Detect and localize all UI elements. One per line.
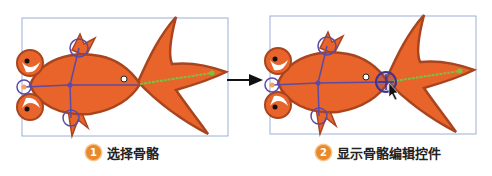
fish-tail [386, 15, 474, 132]
left-pupil [273, 57, 278, 62]
caption-text: 显示骨骼编辑控件 [337, 143, 441, 162]
top-fin [72, 34, 95, 56]
right-pupil [25, 107, 30, 112]
joint-root[interactable] [68, 83, 73, 88]
fish-armature-canvas [252, 0, 492, 140]
joint-head[interactable] [22, 85, 27, 90]
fish-armature-canvas [0, 0, 240, 140]
fish-tail [138, 17, 226, 134]
step-badge: 2 [316, 145, 331, 160]
panel-select-bone: 1 选择骨骼 [0, 0, 240, 176]
joint-root[interactable] [316, 81, 321, 86]
right-pupil [273, 105, 278, 110]
left-pupil [25, 59, 30, 64]
selected-bone-tip[interactable] [210, 71, 215, 76]
selected-bone-tip[interactable] [458, 69, 463, 74]
transform-point-icon[interactable] [363, 74, 369, 80]
caption-step-2: 2 显示骨骼编辑控件 [316, 143, 441, 162]
transform-point-icon[interactable] [121, 76, 127, 82]
caption-text: 选择骨骼 [107, 143, 159, 162]
top-fin [320, 32, 343, 54]
step-badge: 1 [86, 145, 101, 160]
joint-head[interactable] [270, 83, 275, 88]
panel-bone-edit-controls: 2 显示骨骼编辑控件 [252, 0, 492, 176]
caption-step-1: 1 选择骨骼 [86, 143, 159, 162]
